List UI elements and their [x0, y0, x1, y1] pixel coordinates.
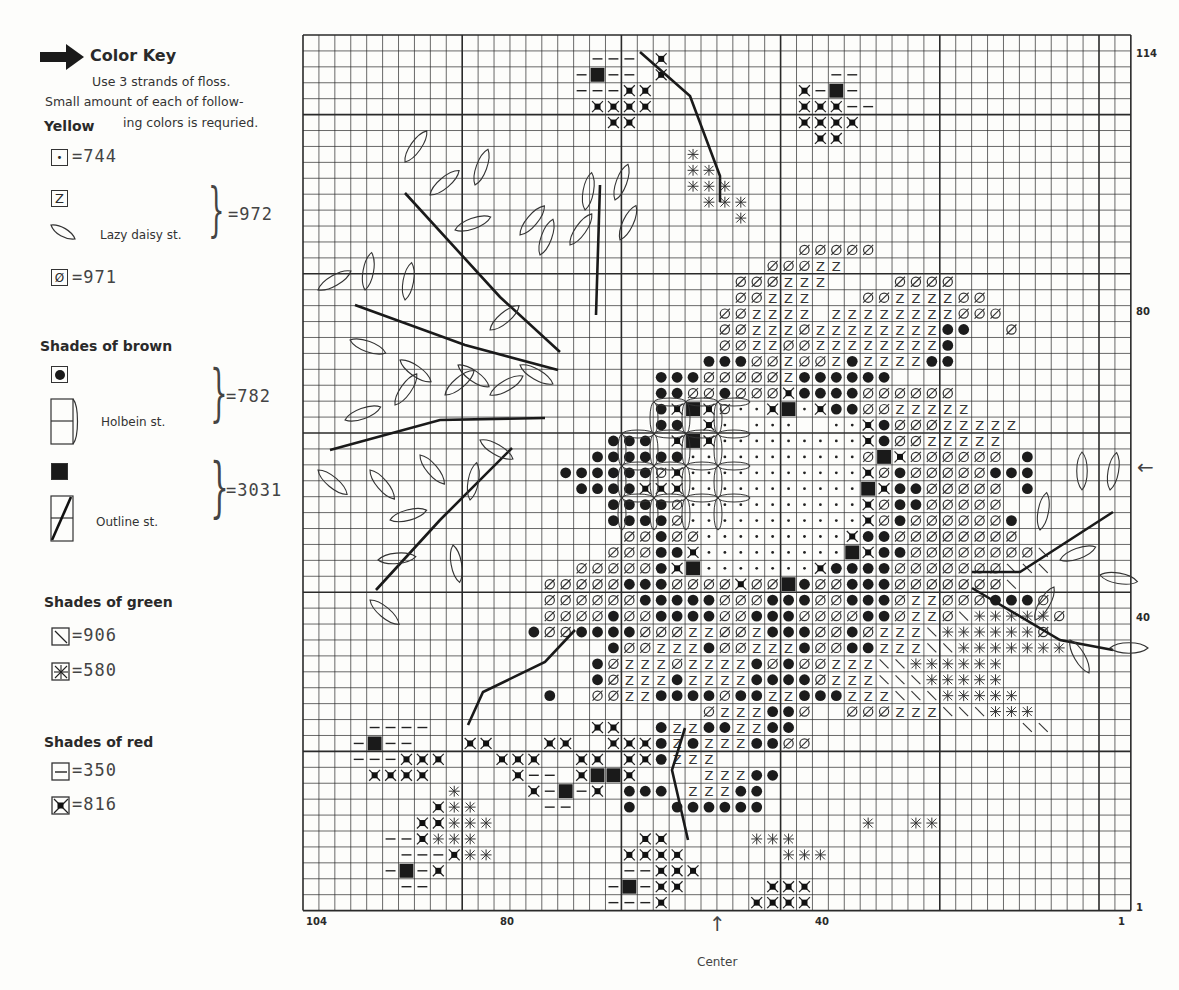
svg-text:Z: Z [832, 259, 841, 274]
svg-text:Z: Z [911, 593, 920, 608]
svg-text:Z: Z [864, 689, 873, 704]
svg-text:Z: Z [832, 673, 841, 688]
svg-text:Z: Z [784, 370, 793, 385]
svg-text:Z: Z [736, 768, 745, 783]
center-label: Center [697, 955, 737, 969]
svg-text:Z: Z [784, 307, 793, 322]
svg-text:Z: Z [705, 768, 714, 783]
svg-text:Z: Z [641, 673, 650, 688]
svg-text:Z: Z [896, 354, 905, 369]
svg-text:Z: Z [784, 291, 793, 306]
svg-text:Z: Z [752, 721, 761, 736]
svg-text:Z: Z [848, 307, 857, 322]
svg-text:Z: Z [927, 705, 936, 720]
chart-stitch-lines [315, 52, 1148, 840]
svg-text:Z: Z [911, 323, 920, 338]
svg-text:Z: Z [689, 721, 698, 736]
svg-text:Z: Z [689, 657, 698, 672]
svg-text:Z: Z [927, 609, 936, 624]
svg-text:Z: Z [816, 275, 825, 290]
svg-text:Z: Z [911, 354, 920, 369]
svg-text:Z: Z [864, 323, 873, 338]
svg-text:Z: Z [784, 641, 793, 656]
svg-text:Z: Z [975, 434, 984, 449]
svg-text:Z: Z [705, 625, 714, 640]
svg-text:Z: Z [768, 323, 777, 338]
center-arrow-left-icon: ← [1137, 455, 1154, 479]
svg-text:Z: Z [832, 338, 841, 353]
svg-text:Z: Z [736, 736, 745, 751]
svg-text:Z: Z [689, 784, 698, 799]
svg-text:Z: Z [784, 354, 793, 369]
svg-text:Z: Z [720, 705, 729, 720]
x-axis-label: 80 [500, 916, 514, 927]
svg-text:Z: Z [880, 307, 889, 322]
svg-text:Z: Z [880, 625, 889, 640]
svg-text:Z: Z [991, 434, 1000, 449]
svg-text:Z: Z [752, 705, 761, 720]
svg-text:Z: Z [896, 291, 905, 306]
svg-text:Z: Z [752, 641, 761, 656]
svg-text:Z: Z [752, 323, 761, 338]
svg-text:Z: Z [736, 673, 745, 688]
svg-text:Z: Z [927, 338, 936, 353]
svg-text:Z: Z [864, 673, 873, 688]
svg-text:Z: Z [911, 609, 920, 624]
svg-text:Z: Z [816, 338, 825, 353]
svg-text:Z: Z [816, 259, 825, 274]
svg-text:Z: Z [943, 307, 952, 322]
svg-text:Z: Z [736, 721, 745, 736]
svg-text:Z: Z [705, 657, 714, 672]
svg-text:Z: Z [720, 768, 729, 783]
y-axis-label: 80 [1136, 306, 1150, 317]
svg-text:Z: Z [641, 689, 650, 704]
x-axis-label: 104 [306, 916, 327, 927]
svg-text:Z: Z [1007, 418, 1016, 433]
x-axis-label: 40 [815, 916, 829, 927]
svg-text:Z: Z [800, 291, 809, 306]
svg-text:Z: Z [673, 721, 682, 736]
svg-text:Z: Z [752, 625, 761, 640]
svg-text:Z: Z [673, 641, 682, 656]
svg-text:Z: Z [896, 307, 905, 322]
svg-text:Z: Z [943, 402, 952, 417]
y-axis-label: 40 [1136, 612, 1150, 623]
svg-text:Z: Z [848, 338, 857, 353]
svg-text:Z: Z [880, 323, 889, 338]
svg-text:Z: Z [848, 657, 857, 672]
x-axis-label: 1 [1118, 916, 1125, 927]
svg-text:Z: Z [689, 641, 698, 656]
cross-stitch-chart: ZZZZZZZZZZZZZZZZZZZZZZZZZZZZZZZZZZZZZZZZ… [0, 0, 1179, 990]
svg-text:Z: Z [641, 657, 650, 672]
svg-text:Z: Z [911, 641, 920, 656]
svg-text:Z: Z [896, 641, 905, 656]
svg-text:Z: Z [705, 784, 714, 799]
svg-text:Z: Z [800, 275, 809, 290]
svg-text:Z: Z [911, 307, 920, 322]
svg-text:Z: Z [784, 689, 793, 704]
svg-text:Z: Z [975, 418, 984, 433]
svg-text:Z: Z [880, 354, 889, 369]
svg-text:Z: Z [927, 402, 936, 417]
svg-text:Z: Z [848, 673, 857, 688]
svg-text:Z: Z [736, 657, 745, 672]
svg-text:Z: Z [800, 307, 809, 322]
svg-text:Z: Z [927, 593, 936, 608]
svg-text:Z: Z [705, 752, 714, 767]
svg-text:Z: Z [832, 307, 841, 322]
svg-text:Z: Z [943, 418, 952, 433]
svg-text:Z: Z [768, 338, 777, 353]
svg-text:Z: Z [625, 689, 634, 704]
svg-text:Z: Z [768, 307, 777, 322]
svg-text:Z: Z [736, 705, 745, 720]
svg-text:Z: Z [864, 338, 873, 353]
svg-text:Z: Z [864, 657, 873, 672]
svg-text:Z: Z [816, 323, 825, 338]
svg-text:Z: Z [880, 338, 889, 353]
svg-text:Z: Z [943, 291, 952, 306]
svg-text:Z: Z [880, 689, 889, 704]
center-arrow-up-icon: ↑ [709, 912, 726, 936]
svg-text:Z: Z [959, 434, 968, 449]
svg-text:Z: Z [911, 291, 920, 306]
svg-text:Z: Z [927, 307, 936, 322]
